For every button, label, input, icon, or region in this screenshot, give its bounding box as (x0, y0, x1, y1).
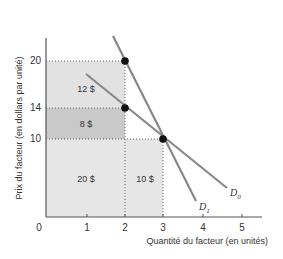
label-d1: D1 (198, 201, 210, 215)
x-tick-3: 3 (160, 222, 166, 233)
y-tick-20: 20 (30, 55, 42, 66)
point-2-14 (121, 104, 129, 112)
y-axis-label: Prix du facteur (en dollars par unité) (14, 56, 24, 199)
chart: 0 1 2 3 4 5 10 14 20 Quantité du facteur… (0, 0, 283, 259)
area-label-20: 20 $ (77, 174, 95, 184)
label-d0: D0 (229, 187, 241, 201)
x-tick-5: 5 (239, 222, 245, 233)
x-tick-1: 1 (84, 222, 90, 233)
y-tick-14: 14 (30, 102, 42, 113)
area-label-8: 8 $ (80, 119, 93, 129)
area-label-10: 10 $ (136, 174, 154, 184)
point-2-20 (121, 57, 129, 65)
y-tick-labels: 10 14 20 (30, 55, 42, 144)
x-axis-label: Quantité du facteur (en unités) (146, 236, 268, 246)
x-tick-0: 0 (36, 222, 42, 233)
point-3-10 (159, 135, 167, 143)
x-tick-labels: 0 1 2 3 4 5 (36, 222, 245, 233)
y-tick-10: 10 (30, 133, 42, 144)
x-tick-2: 2 (122, 222, 128, 233)
area-label-12: 12 $ (77, 84, 95, 94)
x-tick-4: 4 (200, 222, 206, 233)
